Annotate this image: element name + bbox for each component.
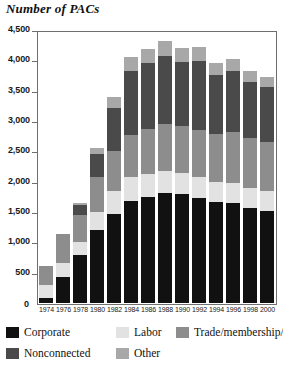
- x-axis: 1974197619781980198219841986198819901992…: [38, 306, 276, 320]
- bar-1990[interactable]: [175, 48, 189, 303]
- bar-2000[interactable]: [260, 77, 274, 303]
- bar-segment-corporate: [175, 194, 189, 303]
- legend-item-nonconnected[interactable]: Nonconnected: [6, 347, 90, 359]
- bar-segment-corporate: [39, 298, 53, 303]
- bar-1996[interactable]: [226, 59, 240, 303]
- legend-label: Labor: [134, 326, 161, 338]
- bar-segment-other: [243, 71, 257, 82]
- legend-row-1: CorporateLaborTrade/membership/health: [6, 326, 281, 346]
- bar-segment-labor: [107, 191, 121, 214]
- bar-segment-nonconnected: [158, 56, 172, 124]
- bar-segment-trade-membership-health: [107, 151, 121, 190]
- bar-segment-corporate: [260, 211, 274, 303]
- bar-segment-corporate: [243, 208, 257, 303]
- bar-segment-trade-membership-health: [175, 126, 189, 173]
- bar-1974[interactable]: [39, 266, 53, 303]
- bar-1986[interactable]: [141, 49, 155, 303]
- y-axis-tick-label: 2,500: [8, 145, 30, 155]
- y-axis-tick-label: 3,000: [8, 115, 30, 125]
- bar-1978[interactable]: [73, 203, 87, 303]
- bar-segment-corporate: [158, 193, 172, 303]
- legend-item-corporate[interactable]: Corporate: [6, 326, 70, 338]
- bar-segment-other: [107, 97, 121, 107]
- bar-segment-labor: [124, 177, 138, 201]
- bar-segment-trade-membership-health: [209, 134, 223, 182]
- bar-1988[interactable]: [158, 41, 172, 303]
- bar-segment-trade-membership-health: [124, 135, 138, 177]
- legend-swatch-icon: [116, 348, 129, 359]
- y-axis-zero-label: 0: [24, 299, 29, 309]
- bar-segment-corporate: [141, 197, 155, 303]
- bar-segment-labor: [260, 191, 274, 210]
- page-title: Number of PACs: [6, 1, 100, 17]
- bar-1976[interactable]: [56, 234, 70, 304]
- bar-segment-nonconnected: [260, 87, 274, 142]
- bar-segment-trade-membership-health: [260, 142, 274, 191]
- bar-segment-trade-membership-health: [192, 130, 206, 177]
- y-axis-tick-label: 2,000: [8, 176, 30, 186]
- bar-segment-labor: [192, 177, 206, 198]
- bar-segment-other: [175, 48, 189, 62]
- legend-item-trade-membership-health[interactable]: Trade/membership/health: [176, 326, 283, 338]
- bar-segment-nonconnected: [192, 61, 206, 130]
- bar-segment-trade-membership-health: [141, 129, 155, 174]
- bar-1994[interactable]: [209, 63, 223, 303]
- bar-segment-corporate: [226, 203, 240, 303]
- bar-segment-nonconnected: [107, 108, 121, 152]
- chart-legend: CorporateLaborTrade/membership/health No…: [6, 326, 281, 368]
- bar-segment-nonconnected: [243, 82, 257, 139]
- y-axis-tick-label: 4,000: [8, 54, 30, 64]
- bar-1992[interactable]: [192, 47, 206, 303]
- bar-segment-other: [226, 59, 240, 71]
- bar-1982[interactable]: [107, 97, 121, 303]
- bar-segment-trade-membership-health: [39, 266, 53, 285]
- bar-segment-labor: [175, 173, 189, 194]
- bar-segment-labor: [141, 174, 155, 197]
- bar-segment-trade-membership-health: [73, 215, 87, 242]
- bar-segment-trade-membership-health: [158, 124, 172, 172]
- bar-segment-other: [141, 49, 155, 63]
- bar-segment-nonconnected: [226, 71, 240, 133]
- y-axis-tick-label: 3,500: [8, 85, 30, 95]
- y-axis: 5001,0001,5002,0002,5003,0003,5004,0004,…: [0, 31, 37, 305]
- bar-segment-other: [192, 47, 206, 60]
- bar-segment-trade-membership-health: [226, 132, 240, 183]
- bar-segment-corporate: [56, 277, 70, 303]
- legend-label: Corporate: [24, 326, 70, 338]
- bar-segment-nonconnected: [73, 205, 87, 215]
- bar-segment-corporate: [90, 230, 104, 303]
- bar-segment-other: [209, 63, 223, 75]
- bar-1980[interactable]: [90, 148, 104, 303]
- bar-segment-trade-membership-health: [56, 234, 70, 264]
- bar-segment-corporate: [192, 198, 206, 303]
- legend-swatch-icon: [176, 327, 189, 338]
- bar-segment-labor: [73, 242, 87, 255]
- bar-segment-labor: [243, 188, 257, 207]
- y-axis-tick-label: 4,500: [8, 24, 30, 34]
- legend-row-2: NonconnectedOther: [6, 347, 281, 367]
- bar-1998[interactable]: [243, 71, 257, 303]
- legend-label: Nonconnected: [24, 347, 90, 359]
- bar-segment-nonconnected: [175, 62, 189, 126]
- bar-segment-nonconnected: [141, 63, 155, 128]
- y-axis-tick-label: 1,500: [8, 206, 30, 216]
- legend-item-other[interactable]: Other: [116, 347, 160, 359]
- bar-segment-corporate: [209, 202, 223, 303]
- y-axis-tick-label: 1,000: [8, 236, 30, 246]
- legend-swatch-icon: [116, 327, 129, 338]
- x-axis-label-2000: 2000: [258, 306, 277, 313]
- bar-segment-other: [158, 41, 172, 56]
- bar-segment-trade-membership-health: [243, 138, 257, 188]
- bar-segment-trade-membership-health: [90, 177, 104, 212]
- bar-segment-nonconnected: [124, 71, 138, 135]
- plot-area: [37, 31, 277, 305]
- bar-segment-labor: [209, 182, 223, 202]
- bar-1984[interactable]: [124, 57, 138, 303]
- bar-segment-corporate: [107, 214, 121, 303]
- legend-item-labor[interactable]: Labor: [116, 326, 161, 338]
- bar-segment-corporate: [73, 255, 87, 303]
- bars-layer: [37, 31, 275, 303]
- y-axis-tick-label: 500: [15, 267, 30, 277]
- bar-segment-nonconnected: [209, 75, 223, 134]
- bar-segment-labor: [226, 183, 240, 203]
